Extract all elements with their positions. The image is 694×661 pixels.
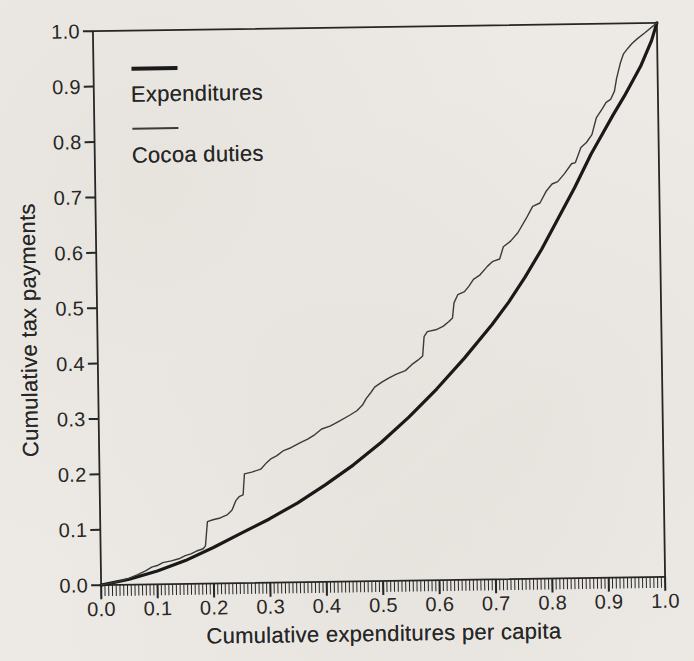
y-tick-label: 0.3 [57, 408, 86, 430]
y-tick-label: 0.6 [54, 242, 83, 264]
y-tick-label: 0.1 [58, 519, 87, 541]
expenditures-line-sample [131, 66, 177, 71]
legend-label-expenditures: Expenditures [131, 80, 263, 108]
y-axis-title: Cumulative tax payments [14, 180, 44, 480]
x-tick-label: 0.0 [87, 598, 116, 620]
chart-legend: Expenditures Cocoa duties [130, 61, 292, 173]
y-tick-label: 0.4 [56, 353, 85, 375]
x-tick-label: 1.0 [651, 590, 680, 612]
chart-canvas: 0.00.10.20.30.40.50.60.70.80.91.00.00.10… [0, 0, 694, 661]
x-tick-label: 0.5 [369, 594, 398, 616]
y-tick-label: 1.0 [51, 20, 80, 42]
y-tick-label: 0.2 [58, 464, 87, 486]
x-tick-label: 0.3 [256, 595, 285, 617]
y-tick-label: 0.7 [54, 187, 83, 209]
x-tick-label: 0.8 [538, 591, 567, 613]
x-tick-label: 0.6 [425, 593, 454, 615]
x-tick-label: 0.4 [313, 595, 342, 617]
y-tick-label: 0.5 [55, 297, 84, 319]
legend-label-cocoa-duties: Cocoa duties [132, 141, 264, 169]
y-tick-label: 0.0 [59, 574, 88, 596]
cocoa-duties-line-sample [132, 127, 178, 130]
y-tick-label: 0.8 [53, 131, 82, 153]
x-tick-label: 0.2 [200, 596, 229, 618]
x-tick-label: 0.9 [595, 590, 624, 612]
x-tick-label: 0.7 [482, 592, 511, 614]
x-tick-label: 0.1 [143, 597, 172, 619]
figure-page: 0.00.10.20.30.40.50.60.70.80.91.00.00.10… [0, 0, 694, 661]
y-tick-label: 0.9 [52, 76, 81, 98]
scanned-chart: 0.00.10.20.30.40.50.60.70.80.91.00.00.10… [0, 0, 694, 661]
